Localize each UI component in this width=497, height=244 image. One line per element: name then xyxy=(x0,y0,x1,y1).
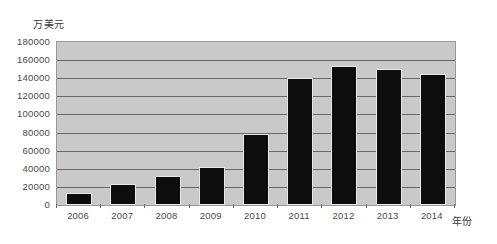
x-axis-tick-mark xyxy=(277,204,278,208)
plot-area xyxy=(56,41,456,206)
x-axis-tick-mark xyxy=(100,204,101,208)
x-axis-tick-labels: 200620072008200920102011201220132014 xyxy=(56,210,454,221)
bar-chart: 万美元 180000160000140000120000100000800006… xyxy=(0,0,497,244)
y-axis-tick-label: 20000 xyxy=(23,180,50,191)
x-axis-tick-mark xyxy=(56,204,57,208)
bar-slot xyxy=(411,42,455,205)
bar-slot xyxy=(278,42,322,205)
y-axis-tick-labels: 1800001600001400001200001000008000060000… xyxy=(0,41,50,204)
x-axis-tick-label: 2014 xyxy=(410,210,454,221)
y-axis-tick-label: 160000 xyxy=(17,54,50,65)
y-axis-tick-label: 60000 xyxy=(23,144,50,155)
bar-2009[interactable] xyxy=(199,167,225,205)
x-axis-tick-label: 2011 xyxy=(277,210,321,221)
x-axis-tick-mark xyxy=(321,204,322,208)
bar-slot xyxy=(57,42,101,205)
y-axis-tick-label: 0 xyxy=(45,199,50,210)
bar-slot xyxy=(145,42,189,205)
x-axis-tick-label: 2012 xyxy=(321,210,365,221)
x-axis-tick-label: 2008 xyxy=(144,210,188,221)
bar-slot xyxy=(101,42,145,205)
x-axis-tick-mark xyxy=(233,204,234,208)
y-axis-tick-label: 180000 xyxy=(17,36,50,47)
y-axis-tick-label: 100000 xyxy=(17,108,50,119)
y-axis-tick-label: 140000 xyxy=(17,72,50,83)
x-axis-label: 年份 xyxy=(452,213,472,228)
bar-slot xyxy=(367,42,411,205)
x-axis-tick-label: 2010 xyxy=(233,210,277,221)
bar-2013[interactable] xyxy=(376,69,402,205)
x-axis-tick-mark xyxy=(189,204,190,208)
bar-2008[interactable] xyxy=(155,176,181,205)
bar-2012[interactable] xyxy=(331,66,357,205)
bars-layer xyxy=(57,42,455,205)
y-axis-tick-label: 80000 xyxy=(23,126,50,137)
x-axis-tick-label: 2007 xyxy=(100,210,144,221)
x-axis-tick-mark xyxy=(366,204,367,208)
x-axis-tick-label: 2009 xyxy=(189,210,233,221)
bar-2007[interactable] xyxy=(110,184,136,205)
y-axis-unit-label: 万美元 xyxy=(33,16,65,31)
bar-2014[interactable] xyxy=(420,74,446,205)
bar-2011[interactable] xyxy=(287,78,313,205)
bar-slot xyxy=(234,42,278,205)
x-axis-tick-mark xyxy=(410,204,411,208)
x-axis-tick-label: 2013 xyxy=(366,210,410,221)
bar-2010[interactable] xyxy=(243,134,269,205)
y-axis-tick-label: 120000 xyxy=(17,90,50,101)
x-axis-tick-marks xyxy=(56,204,454,208)
bar-slot xyxy=(190,42,234,205)
x-axis-tick-mark xyxy=(144,204,145,208)
bar-slot xyxy=(322,42,366,205)
x-axis-tick-mark xyxy=(454,204,455,208)
x-axis-tick-label: 2006 xyxy=(56,210,100,221)
y-axis-tick-label: 40000 xyxy=(23,162,50,173)
